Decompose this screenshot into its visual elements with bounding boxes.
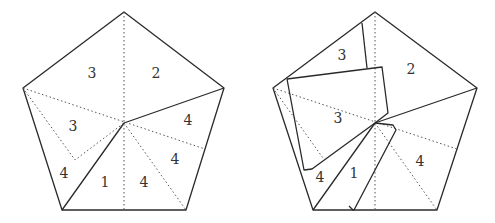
right-raised-flap-left [287, 79, 375, 170]
label: 3 [334, 110, 343, 126]
right-crease-left-flap [273, 88, 323, 158]
label: 3 [69, 118, 78, 134]
label: 2 [152, 65, 161, 81]
label: 4 [416, 153, 425, 169]
right-fold-solid [313, 88, 477, 210]
label: 2 [407, 61, 416, 77]
label: 4 [171, 151, 180, 167]
label: 4 [60, 165, 69, 181]
label: 4 [140, 174, 149, 190]
left-labels: 3 2 3 4 4 4 1 4 [60, 65, 193, 190]
right-crease-horizontal [273, 88, 457, 149]
origami-pentagon-diagram: 3 2 3 4 4 4 1 4 3 2 3 4 4 1 [0, 0, 495, 223]
label: 1 [350, 165, 359, 181]
left-crease-horizontal [23, 88, 205, 149]
right-pentagon: 3 2 3 4 4 1 [273, 12, 477, 210]
label: 1 [101, 174, 110, 190]
right-crease-lower-right [375, 123, 437, 210]
right-top-flap-edge [362, 23, 367, 68]
label: 3 [338, 47, 347, 63]
label: 3 [88, 65, 97, 81]
right-labels: 3 2 3 4 4 1 [316, 47, 425, 185]
left-pentagon: 3 2 3 4 4 4 1 4 [23, 12, 224, 210]
label: 4 [316, 169, 325, 185]
label: 4 [184, 112, 193, 128]
